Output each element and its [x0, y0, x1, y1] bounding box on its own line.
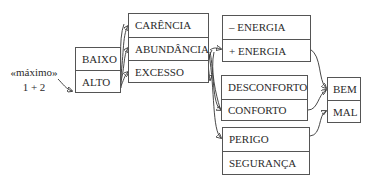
quantity-abundancia: ABUNDÂNCIA	[129, 37, 208, 60]
quantity-box: CARÊNCIA ABUNDÂNCIA EXCESSO	[128, 13, 209, 83]
maximo-label-line2: 1 + 2	[8, 81, 60, 93]
level-alto: ALTO	[76, 70, 120, 93]
arrow-level-to-excesso	[120, 72, 128, 88]
arrow-level-to-abundancia	[120, 48, 128, 84]
arrow-energia-to-bem	[310, 49, 326, 88]
arrow-conforto-to-bem	[308, 90, 326, 110]
comfort-desconforto: DESCONFORTO	[222, 76, 307, 99]
level-baixo: BAIXO	[76, 48, 120, 70]
arrow-level-back	[121, 24, 124, 88]
arrow-abundancia-to-conforto	[210, 52, 221, 110]
safety-perigo: PERIGO	[223, 128, 309, 151]
safety-seguranca: SEGURANÇA	[223, 151, 309, 175]
arrow-abundancia-loop2	[213, 52, 220, 108]
value-box: BEM MAL	[327, 77, 361, 123]
energy-plus: + ENERGIA	[223, 39, 310, 62]
maximo-label-line1: «máximo»	[8, 66, 60, 78]
arrow-maximo-to-alto	[58, 79, 72, 91]
arrow-abundancia-to-energia	[210, 48, 221, 50]
arrow-abundancia-to-perigo	[209, 54, 221, 138]
arrow-perigo-to-mal	[310, 111, 326, 136]
arrow-level-to-carencia	[120, 26, 128, 80]
maximo-label: «máximo» 1 + 2	[8, 66, 60, 93]
level-box: BAIXO ALTO	[75, 47, 121, 93]
comfort-box: DESCONFORTO CONFORTO	[221, 75, 308, 121]
energy-box: – ENERGIA + ENERGIA	[222, 15, 311, 62]
comfort-conforto: CONFORTO	[222, 99, 307, 121]
energy-minus: – ENERGIA	[223, 16, 310, 39]
safety-box: PERIGO SEGURANÇA	[222, 127, 310, 175]
value-bem: BEM	[328, 78, 360, 100]
quantity-excesso: EXCESSO	[129, 60, 208, 83]
value-mal: MAL	[328, 100, 360, 123]
quantity-carencia: CARÊNCIA	[129, 14, 208, 37]
